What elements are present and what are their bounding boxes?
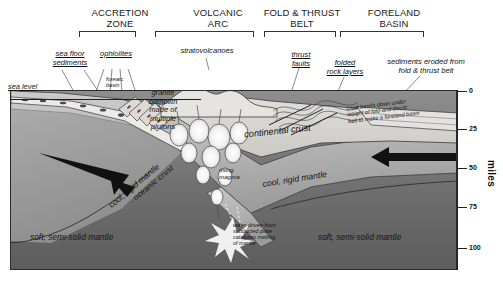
callout-stratovolcanoes: stratovolcanoes [171, 47, 243, 56]
zone-label-foreland-basin: FORELAND BASIN [350, 8, 438, 29]
label-soft-semi-solid-mantle-left: soft, semi-solid mantle [30, 233, 113, 242]
depth-tick-25 [458, 129, 467, 130]
depth-tick-label-100: 100 [469, 244, 481, 251]
zone-bracket-fold-and-thrust-belt [264, 31, 336, 37]
callout-ophiolites: ophiolites [92, 50, 140, 59]
depth-tick-75 [458, 207, 467, 208]
depth-axis-unit-label: miles [486, 160, 497, 187]
depth-tick-label-50: 50 [469, 164, 477, 171]
zone-label-accretion-zone: ACCRETION ZONE [77, 8, 163, 29]
zone-label-fold-and-thrust-belt: FOLD & THRUST BELT [256, 8, 348, 29]
zone-bracket-foreland-basin [340, 31, 424, 37]
label-granite-batholith: granite batholith made of multiple pluto… [139, 89, 187, 132]
label-forearc-basin: forearc basin [106, 76, 123, 89]
label-soft-semi-solid-mantle-right: soft, semi-solid mantle [318, 233, 401, 242]
callout-thrust-faults: thrust faults [284, 51, 318, 68]
depth-tick-50 [458, 168, 467, 169]
label-sea-level: sea level [8, 83, 37, 91]
depth-tick-100 [458, 248, 467, 249]
depth-tick-label-25: 25 [469, 125, 477, 132]
label-rising-magma: rising magma [219, 167, 240, 181]
callout-sediments-eroded-from-fold-thrust-belt: sediments eroded from fold & thrust belt [374, 58, 478, 75]
depth-tick-label-75: 75 [469, 203, 477, 210]
label-water-driven-from-subducted-plate: water driven from subducted plate cataly… [233, 222, 276, 247]
callout-folded-rock-layers: folded rock layers [320, 59, 370, 76]
callout-sea-floor-sediments: sea floor sediments [40, 50, 100, 67]
tectonic-cross-section-figure: ACCRETION ZONE VOLCANIC ARC FOLD & THRUS… [0, 0, 503, 298]
zone-label-volcanic-arc: VOLCANIC ARC [166, 8, 270, 29]
depth-tick-label-0: 0 [469, 87, 473, 94]
depth-axis-line [457, 90, 458, 270]
depth-tick-0 [458, 91, 467, 92]
zone-bracket-volcanic-arc [155, 31, 254, 37]
zone-bracket-accretion-zone [79, 31, 136, 37]
